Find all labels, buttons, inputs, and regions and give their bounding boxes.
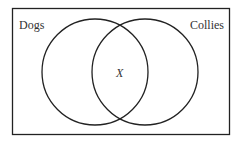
collies-circle [92,19,198,125]
intersection-label: X [115,66,124,80]
venn-diagram: Dogs Collies X [0,0,242,142]
dogs-label: Dogs [19,18,45,32]
dogs-circle [42,19,148,125]
collies-label: Collies [190,18,224,32]
